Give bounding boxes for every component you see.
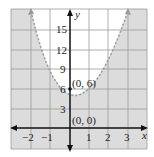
x-tick-2: 2 bbox=[105, 131, 111, 143]
y-axis-label: y bbox=[74, 8, 80, 20]
annotation-0-0: (0, 0) bbox=[72, 114, 96, 127]
y-tick-15: 15 bbox=[56, 23, 68, 35]
x-tick-1: 1 bbox=[86, 131, 92, 143]
x-tick-neg1: −1 bbox=[41, 131, 53, 143]
y-tick-12: 12 bbox=[56, 44, 67, 56]
x-tick-3: 3 bbox=[124, 131, 130, 143]
y-tick-9: 9 bbox=[60, 63, 66, 75]
y-tick-6: 6 bbox=[60, 83, 66, 95]
annotation-0-6: (0, 6) bbox=[72, 77, 96, 90]
x-axis-label: x bbox=[141, 129, 147, 141]
parabola-graph: y x 15 12 9 6 3 −2 −1 1 2 3 (0, 6) (0, 0… bbox=[0, 0, 154, 157]
y-tick-3: 3 bbox=[60, 103, 66, 115]
x-tick-neg2: −2 bbox=[22, 131, 34, 143]
